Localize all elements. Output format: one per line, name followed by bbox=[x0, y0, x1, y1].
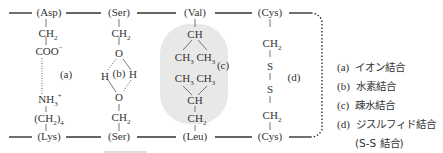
legend-item-ionic: (a)イオン結合 bbox=[337, 59, 405, 74]
asp-coo-minus: COO− bbox=[35, 46, 62, 57]
label-d: (d) bbox=[288, 72, 301, 83]
asp-ch2: CH2 bbox=[39, 28, 58, 39]
cys-top-ch2: CH2 bbox=[263, 38, 282, 49]
val-ch: CH bbox=[187, 29, 202, 40]
leu-ch: CH bbox=[187, 95, 202, 106]
cys-bottom-s: S bbox=[267, 84, 273, 95]
val-ch3-pair: CH3 CH3 bbox=[175, 52, 215, 63]
ser-h-right: H bbox=[129, 69, 137, 80]
residue-leu: (Leu) bbox=[183, 131, 207, 142]
ser-h-left: H bbox=[101, 71, 109, 82]
residue-lys: (Lys) bbox=[37, 131, 60, 142]
cys-top-s: S bbox=[267, 61, 273, 72]
residue-ser-bottom: (Ser) bbox=[108, 131, 130, 142]
cys-bottom-ch2: CH2 bbox=[263, 110, 282, 121]
ser-bottom-o: O bbox=[115, 92, 123, 103]
label-c: (c) bbox=[217, 60, 229, 71]
lys-ch2-4: (CH2)4 bbox=[34, 113, 64, 124]
ser-bottom-ch2: CH2 bbox=[112, 112, 131, 123]
residue-ser-top: (Ser) bbox=[108, 7, 130, 18]
legend-item-disulfide: (d)ジスルフィド結合 bbox=[337, 116, 436, 131]
legend-item-hydrogen: (b)水素結合 bbox=[337, 78, 396, 93]
residue-cys-bottom: (Cys) bbox=[258, 131, 282, 142]
residue-val: (Val) bbox=[184, 7, 206, 18]
ser-top-ch2: CH2 bbox=[112, 28, 131, 39]
residue-cys-top: (Cys) bbox=[258, 7, 282, 18]
label-b: (b) bbox=[113, 68, 126, 79]
legend-item-hydrophobic: (c)疎水結合 bbox=[337, 97, 395, 112]
residue-asp: (Asp) bbox=[36, 7, 61, 18]
legend-note-ss: (S-S 結合) bbox=[355, 135, 404, 150]
leu-ch3-pair: CH3 CH3 bbox=[175, 73, 215, 84]
lys-nh3-plus: NH3+ bbox=[38, 94, 61, 105]
label-a: (a) bbox=[60, 69, 72, 80]
ser-top-o: O bbox=[115, 48, 123, 59]
leu-ch2: CH2 bbox=[188, 113, 207, 124]
